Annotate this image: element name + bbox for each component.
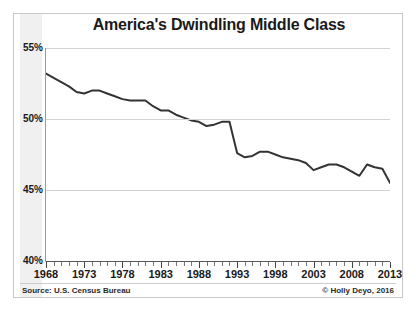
x-axis-minor-tick bbox=[214, 262, 215, 266]
data-line-series bbox=[46, 48, 390, 261]
x-axis-minor-tick bbox=[298, 262, 299, 266]
x-axis-minor-tick bbox=[77, 262, 78, 266]
x-axis-minor-tick bbox=[329, 262, 330, 266]
y-axis-tick-label: 50% bbox=[9, 113, 43, 124]
x-axis-tick-label: 2003 bbox=[294, 268, 334, 280]
x-axis-minor-tick bbox=[222, 262, 223, 266]
x-axis-tick-label: 1968 bbox=[26, 268, 66, 280]
y-axis-tick-labels: 55% 50% 45% 40% bbox=[5, 0, 43, 314]
chart-title: America's Dwindling Middle Class bbox=[48, 16, 390, 34]
x-axis-tick-label: 2013 bbox=[370, 268, 410, 280]
x-axis-minor-tick bbox=[336, 262, 337, 266]
x-axis-tick-label: 1973 bbox=[64, 268, 104, 280]
x-axis-minor-tick bbox=[176, 262, 177, 266]
x-axis-minor-tick bbox=[291, 262, 292, 266]
x-axis-minor-tick bbox=[168, 262, 169, 266]
x-axis-minor-tick bbox=[252, 262, 253, 266]
x-axis-minor-tick bbox=[54, 262, 55, 266]
gridline-55 bbox=[46, 48, 390, 49]
x-axis-minor-tick bbox=[260, 262, 261, 266]
x-axis-tick-label: 1978 bbox=[102, 268, 142, 280]
x-axis-tick-label: 1993 bbox=[217, 268, 257, 280]
x-axis-minor-tick bbox=[153, 262, 154, 266]
x-axis-minor-tick bbox=[245, 262, 246, 266]
source-note: Source: U.S. Census Bureau bbox=[22, 286, 130, 295]
x-axis-minor-tick bbox=[130, 262, 131, 266]
x-axis-minor-tick bbox=[283, 262, 284, 266]
y-axis-tick-label: 55% bbox=[9, 42, 43, 53]
gridline-45 bbox=[46, 190, 390, 191]
x-axis-minor-tick bbox=[100, 262, 101, 266]
x-axis-tick-label: 1988 bbox=[179, 268, 219, 280]
x-axis-minor-tick bbox=[229, 262, 230, 266]
x-axis-minor-tick bbox=[145, 262, 146, 266]
x-axis-line bbox=[46, 261, 390, 262]
x-axis-minor-tick bbox=[61, 262, 62, 266]
chart-figure: America's Dwindling Middle Class 55% 50%… bbox=[0, 0, 416, 314]
x-axis-minor-tick bbox=[107, 262, 108, 266]
x-axis-minor-tick bbox=[359, 262, 360, 266]
x-axis-minor-tick bbox=[367, 262, 368, 266]
x-axis-minor-tick bbox=[375, 262, 376, 266]
plot-area bbox=[46, 48, 390, 261]
x-axis-minor-tick bbox=[382, 262, 383, 266]
page-caption-text bbox=[6, 303, 410, 312]
x-axis-minor-tick bbox=[344, 262, 345, 266]
x-axis-minor-tick bbox=[115, 262, 116, 266]
x-axis-tick-label: 1983 bbox=[141, 268, 181, 280]
y-axis-tick-label: 40% bbox=[9, 255, 43, 266]
x-axis-minor-tick bbox=[69, 262, 70, 266]
x-axis-minor-tick bbox=[138, 262, 139, 266]
credit-note: © Holly Deyo, 2016 bbox=[322, 286, 394, 295]
x-axis-tick-label: 2008 bbox=[332, 268, 372, 280]
x-axis-minor-tick bbox=[268, 262, 269, 266]
x-axis-minor-tick bbox=[184, 262, 185, 266]
gridline-50 bbox=[46, 119, 390, 120]
footer-divider bbox=[20, 283, 396, 284]
x-axis-minor-tick bbox=[92, 262, 93, 266]
x-axis-minor-tick bbox=[321, 262, 322, 266]
y-axis-tick-label: 45% bbox=[9, 184, 43, 195]
x-axis-minor-tick bbox=[191, 262, 192, 266]
x-axis-minor-tick bbox=[207, 262, 208, 266]
x-axis-minor-tick bbox=[306, 262, 307, 266]
x-axis-tick-label: 1998 bbox=[255, 268, 295, 280]
